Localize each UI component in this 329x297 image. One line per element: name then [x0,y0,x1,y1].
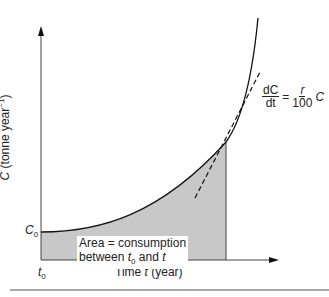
c0-label: C0 [25,223,38,239]
area-annotation: Area = consumption between t0 and t [77,236,188,269]
x-axis-arrow-icon [269,257,279,263]
t0-label: t0 [38,265,46,281]
rate-equation: dCdt = r100 C [262,84,324,109]
y-axis-arrow-icon [38,26,44,36]
y-axis-label: C (tonne year−1) [0,95,12,181]
